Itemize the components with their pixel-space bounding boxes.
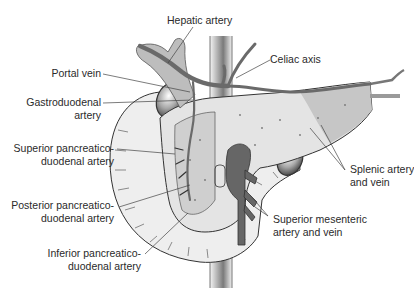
label-superior-pancreaticoduodenal-artery: Superior pancreatico- duodenal artery [14, 142, 114, 167]
label-hepatic-artery: Hepatic artery [167, 14, 232, 27]
label-superior-mesenteric-artery-and-vein: Superior mesenteric artery and vein [273, 213, 367, 238]
label-posterior-pancreaticoduodenal-artery: Posterior pancreatico- duodenal artery [11, 199, 114, 224]
pancreas-anatomy-diagram: Hepatic artery Portal vein Celiac axis G… [0, 0, 414, 288]
label-gastroduodenal-artery: Gastroduodenal artery [26, 96, 101, 121]
label-splenic-artery-and-vein: Splenic artery and vein [350, 163, 414, 188]
label-portal-vein: Portal vein [51, 67, 101, 80]
label-celiac-axis: Celiac axis [270, 53, 321, 66]
pancreas [160, 70, 404, 232]
label-inferior-pancreaticoduodenal-artery: Inferior pancreatico- duodenal artery [48, 247, 141, 272]
